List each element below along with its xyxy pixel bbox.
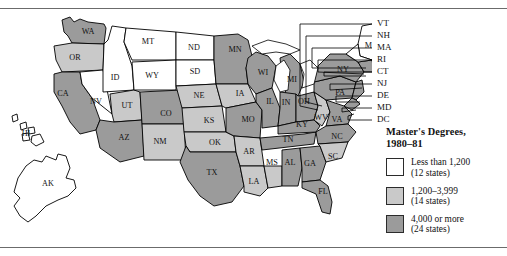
legend-swatch xyxy=(386,215,404,233)
state-label-NE: NE xyxy=(194,91,205,100)
state-label-WV: WV xyxy=(314,113,328,122)
state-label-NV: NV xyxy=(90,97,102,106)
leader-label-DE: DE xyxy=(377,90,389,100)
legend-swatch xyxy=(386,158,404,176)
state-label-SC: SC xyxy=(328,152,339,161)
state-FL[interactable] xyxy=(302,180,332,214)
leader-label-DC: DC xyxy=(377,114,390,124)
state-label-ND: ND xyxy=(188,43,200,52)
leader-label-MA: MA xyxy=(377,42,392,52)
state-label-KS: KS xyxy=(204,116,215,125)
state-label-NY: NY xyxy=(337,65,349,74)
legend-title-line2: 1980–81 xyxy=(386,138,504,150)
legend-row[interactable]: 4,000 or more(24 states) xyxy=(386,214,504,235)
state-label-WY: WY xyxy=(145,71,159,80)
legend-row[interactable]: 1,200–3,999(14 states) xyxy=(386,186,504,207)
state-label-HI: HI xyxy=(22,129,31,138)
great-lakes-superior xyxy=(252,40,300,54)
leader-label-MD: MD xyxy=(377,102,392,112)
state-label-NM: NM xyxy=(153,137,167,146)
state-label-AL: AL xyxy=(285,158,296,167)
legend-title-line1: Master's Degrees, xyxy=(386,126,504,138)
state-label-IA: IA xyxy=(236,89,245,98)
state-label-TX: TX xyxy=(207,168,218,177)
us-choropleth-map: WAORCAIDNVUTMTWYCOAZNMNDSDNEKSOKTXMNIAMO… xyxy=(0,10,372,246)
state-label-PA: PA xyxy=(335,88,345,97)
leader-label-VT: VT xyxy=(377,18,389,28)
state-label-TN: TN xyxy=(283,135,294,144)
legend-range: 1,200–3,999 xyxy=(411,186,458,197)
state-label-IN: IN xyxy=(282,98,291,107)
state-label-AK: AK xyxy=(42,179,54,188)
state-label-IL: IL xyxy=(266,97,274,106)
state-label-MS: MS xyxy=(266,158,278,167)
state-label-OK: OK xyxy=(209,138,221,147)
state-label-ME: ME xyxy=(365,41,372,50)
top-rule xyxy=(0,8,507,9)
state-label-CO: CO xyxy=(160,109,171,118)
leader-label-NJ: NJ xyxy=(377,78,387,88)
legend-text: 4,000 or more(24 states) xyxy=(411,214,464,235)
state-AL[interactable] xyxy=(282,148,302,186)
state-label-AZ: AZ xyxy=(119,133,130,142)
legend-count: (12 states) xyxy=(411,168,470,179)
leader-label-CT: CT xyxy=(377,66,389,76)
state-label-MN: MN xyxy=(228,45,241,54)
leader-label-NH: NH xyxy=(377,30,390,40)
state-label-OR: OR xyxy=(69,53,81,62)
leader-label-RI: RI xyxy=(377,54,386,64)
bottom-rule xyxy=(0,247,507,248)
legend-range: Less than 1,200 xyxy=(411,157,470,168)
state-label-SD: SD xyxy=(190,67,201,76)
legend-row[interactable]: Less than 1,200(12 states) xyxy=(386,157,504,178)
state-label-OH: OH xyxy=(298,97,310,106)
state-label-MI: MI xyxy=(287,75,297,84)
state-label-WA: WA xyxy=(82,27,95,36)
map-legend: Master's Degrees, 1980–81 Less than 1,20… xyxy=(386,126,504,235)
legend-title: Master's Degrees, 1980–81 xyxy=(386,126,504,150)
state-label-UT: UT xyxy=(122,101,133,110)
state-label-KY: KY xyxy=(296,120,308,129)
legend-range: 4,000 or more xyxy=(411,214,464,225)
state-label-VA: VA xyxy=(332,115,343,124)
figure-container: WAORCAIDNVUTMTWYCOAZNMNDSDNEKSOKTXMNIAMO… xyxy=(0,0,507,256)
state-label-GA: GA xyxy=(304,159,316,168)
state-label-AR: AR xyxy=(243,147,255,156)
state-label-FL: FL xyxy=(318,187,328,196)
state-label-NC: NC xyxy=(331,132,343,141)
legend-swatch xyxy=(386,187,404,205)
state-CO[interactable] xyxy=(140,90,184,124)
legend-text: 1,200–3,999(14 states) xyxy=(411,186,458,207)
legend-count: (24 states) xyxy=(411,224,464,235)
legend-count: (14 states) xyxy=(411,196,458,207)
state-MN[interactable] xyxy=(214,34,252,84)
map-svg: WAORCAIDNVUTMTWYCOAZNMNDSDNEKSOKTXMNIAMO… xyxy=(0,10,372,246)
state-label-LA: LA xyxy=(249,177,260,186)
state-label-ID: ID xyxy=(111,73,120,82)
state-label-WI: WI xyxy=(258,68,269,77)
legend-text: Less than 1,200(12 states) xyxy=(411,157,470,178)
state-AK[interactable] xyxy=(14,154,76,222)
legend-rows: Less than 1,200(12 states)1,200–3,999(14… xyxy=(386,157,504,235)
state-label-MO: MO xyxy=(241,115,254,124)
state-label-MT: MT xyxy=(142,37,154,46)
state-label-CA: CA xyxy=(57,89,68,98)
